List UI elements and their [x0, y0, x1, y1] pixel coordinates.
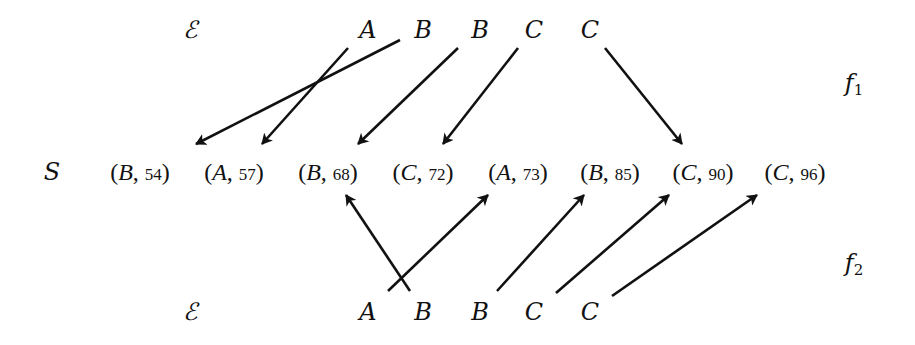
seq-item-7: (C, 90)	[672, 160, 733, 184]
seq-item-7-value: 90	[709, 165, 726, 184]
seq-item-8-value: 96	[801, 165, 818, 184]
bottom-item-3: B	[471, 300, 489, 324]
f1-label: f1	[845, 71, 863, 98]
seq-item-8-symbol: C	[772, 159, 788, 185]
bottom-item-5: C	[581, 300, 599, 324]
seq-item-3: (B, 68)	[298, 160, 358, 184]
seq-item-3-value: 68	[333, 165, 350, 184]
seq-item-6-symbol: B	[588, 159, 603, 185]
f1-label-name: f	[845, 69, 854, 97]
f1-label-index: 1	[854, 81, 864, 99]
f2-arrow-A-to-A73	[388, 195, 488, 291]
f2-label: f2	[845, 251, 863, 278]
mapping-diagram: ℰ A B B C C f1 S (B, 54) (A, 57) (B, 68)…	[0, 0, 915, 345]
f2-arrow-B-to-B68	[346, 195, 410, 291]
f1-arrow-B-to-B68	[358, 48, 458, 144]
top-item-1: A	[359, 18, 376, 42]
seq-item-1-symbol: B	[118, 159, 133, 185]
f2-arrow-B-to-B85	[497, 195, 584, 291]
seq-item-1: (B, 54)	[110, 160, 170, 184]
seq-item-4-value: 72	[429, 165, 446, 184]
top-item-2: B	[414, 18, 432, 42]
f2-arrow-C-to-C90	[556, 195, 669, 293]
set-label: S	[44, 160, 60, 184]
f1-arrow-C-to-C90	[605, 48, 682, 144]
f1-arrow-B-to-B54	[196, 40, 400, 144]
bottom-row-label: ℰ	[183, 300, 198, 324]
top-item-3: B	[471, 18, 489, 42]
seq-item-1-value: 54	[145, 165, 162, 184]
f2-arrow-C-to-C96	[612, 195, 757, 296]
f1-arrows	[196, 40, 682, 144]
bottom-item-1: A	[359, 300, 376, 324]
seq-item-5-symbol: A	[496, 159, 511, 185]
f1-arrow-A-to-A57	[262, 48, 348, 144]
seq-item-5: (A, 73)	[488, 160, 548, 184]
seq-item-4-symbol: C	[400, 159, 416, 185]
seq-item-6: (B, 85)	[580, 160, 640, 184]
f2-arrows	[346, 195, 757, 296]
seq-item-6-value: 85	[615, 165, 632, 184]
seq-item-5-value: 73	[523, 165, 540, 184]
top-item-5: C	[581, 18, 599, 42]
top-item-4: C	[525, 18, 543, 42]
seq-item-3-symbol: B	[306, 159, 321, 185]
seq-item-4: (C, 72)	[392, 160, 453, 184]
seq-item-7-symbol: C	[680, 159, 696, 185]
f2-label-name: f	[845, 249, 854, 277]
seq-item-2-symbol: A	[212, 159, 227, 185]
seq-item-2: (A, 57)	[204, 160, 264, 184]
seq-item-8: (C, 96)	[764, 160, 825, 184]
bottom-item-2: B	[414, 300, 432, 324]
bottom-item-4: C	[525, 300, 543, 324]
f2-label-index: 2	[854, 261, 864, 279]
seq-item-2-value: 57	[239, 165, 256, 184]
f1-arrow-C-to-C72	[443, 48, 518, 144]
top-row-label: ℰ	[183, 18, 198, 42]
